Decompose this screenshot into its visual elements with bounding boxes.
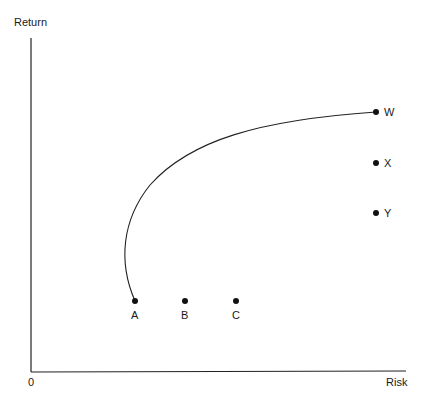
point-w-label: W [384, 106, 394, 118]
point-x [373, 160, 379, 166]
chart-canvas [0, 0, 426, 407]
point-x-label: X [384, 157, 391, 169]
point-y-label: Y [384, 207, 391, 219]
x-axis [31, 371, 406, 372]
point-b [182, 298, 188, 304]
efficient-frontier-curve [125, 112, 376, 301]
point-c [233, 298, 239, 304]
point-b-label: B [181, 309, 188, 321]
point-y [373, 210, 379, 216]
point-a-label: A [131, 309, 138, 321]
point-c-label: C [232, 309, 240, 321]
point-a [132, 298, 138, 304]
y-axis-label: Return [14, 16, 47, 28]
x-axis-label: Risk [386, 376, 407, 388]
point-w [373, 109, 379, 115]
origin-label: 0 [28, 376, 34, 388]
